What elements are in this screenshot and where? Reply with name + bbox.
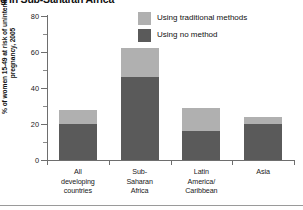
y-tick-label: 60 (17, 48, 39, 57)
chart-title: g in Sub-Saharan Africa (0, 0, 303, 6)
legend-label: Using traditional methods (157, 13, 247, 22)
x-tick (109, 160, 110, 165)
bar-segment[interactable] (244, 124, 282, 160)
bar-segment[interactable] (59, 110, 97, 124)
bottom-divider (0, 205, 303, 206)
x-tick (294, 160, 295, 165)
y-tick-label: 80 (17, 12, 39, 21)
legend-swatch (138, 29, 151, 42)
y-tick-label: 0 (17, 156, 39, 165)
bar-group[interactable] (244, 16, 282, 160)
bar-segment[interactable] (244, 117, 282, 124)
bar-group[interactable] (59, 16, 97, 160)
bar-segment[interactable] (182, 131, 220, 160)
x-tick (171, 160, 172, 165)
legend-swatch (138, 12, 151, 25)
x-tick (47, 160, 48, 165)
bar-segment[interactable] (59, 124, 97, 160)
x-axis-label: Asia (227, 167, 299, 177)
bar-segment[interactable] (121, 48, 159, 77)
bar-segment[interactable] (182, 108, 220, 131)
y-tick-label: 40 (17, 84, 39, 93)
x-tick (232, 160, 233, 165)
bar-segment[interactable] (121, 77, 159, 160)
y-tick-label: 20 (17, 120, 39, 129)
legend-label: Using no method (157, 30, 217, 39)
